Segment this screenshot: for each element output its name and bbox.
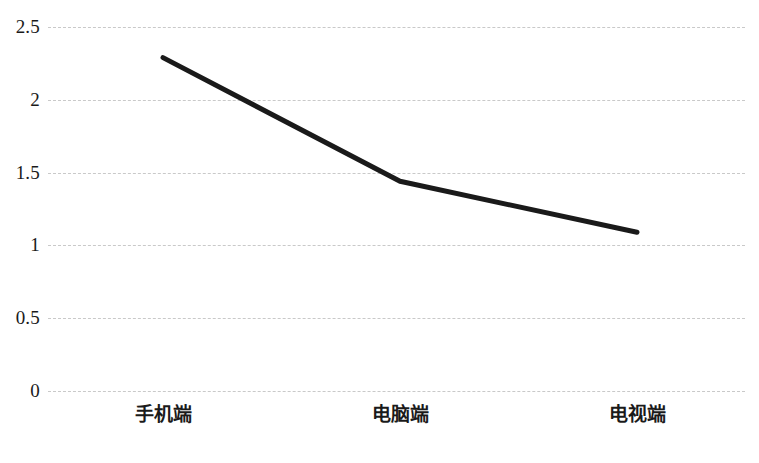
gridline bbox=[48, 173, 745, 174]
gridline bbox=[48, 100, 745, 101]
series-line-layer bbox=[0, 0, 759, 463]
gridline bbox=[48, 245, 745, 246]
gridline bbox=[48, 27, 745, 28]
y-axis-tick-label: 1.5 bbox=[16, 163, 40, 182]
series-line bbox=[163, 58, 637, 233]
gridline bbox=[48, 391, 745, 392]
y-axis-tick-label: 2 bbox=[30, 90, 40, 109]
plot-area: 2.521.510.50 手机端电脑端电视端 bbox=[0, 0, 759, 463]
x-axis-category-label: 电视端 bbox=[609, 404, 666, 426]
y-axis-tick-label: 0 bbox=[30, 381, 40, 400]
x-axis-category-label: 电脑端 bbox=[372, 404, 429, 426]
x-axis-category-label: 手机端 bbox=[135, 404, 192, 426]
y-axis-tick-label: 2.5 bbox=[16, 17, 40, 36]
gridline bbox=[48, 318, 745, 319]
line-chart: 2.521.510.50 手机端电脑端电视端 bbox=[0, 0, 759, 463]
y-axis-tick-label: 0.5 bbox=[16, 308, 40, 327]
y-axis-tick-label: 1 bbox=[30, 235, 40, 254]
